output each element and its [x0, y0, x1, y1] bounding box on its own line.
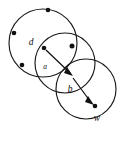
- label-d: d: [29, 37, 34, 47]
- label-b: b: [68, 84, 73, 94]
- perimeter-dot-upper-left: [12, 31, 17, 36]
- label-w: w: [94, 113, 101, 123]
- point-d-dot: [42, 46, 47, 51]
- label-a: a: [43, 62, 47, 71]
- geometry-diagram: d a b w: [0, 0, 134, 146]
- perimeter-dot-top: [46, 8, 51, 13]
- perimeter-dot-lower-left: [20, 63, 25, 68]
- arrow-head-w: [85, 96, 94, 105]
- perimeter-dot-middle-right: [70, 44, 75, 49]
- point-w-dot: [93, 104, 98, 109]
- figure-container: d a b w: [0, 0, 134, 146]
